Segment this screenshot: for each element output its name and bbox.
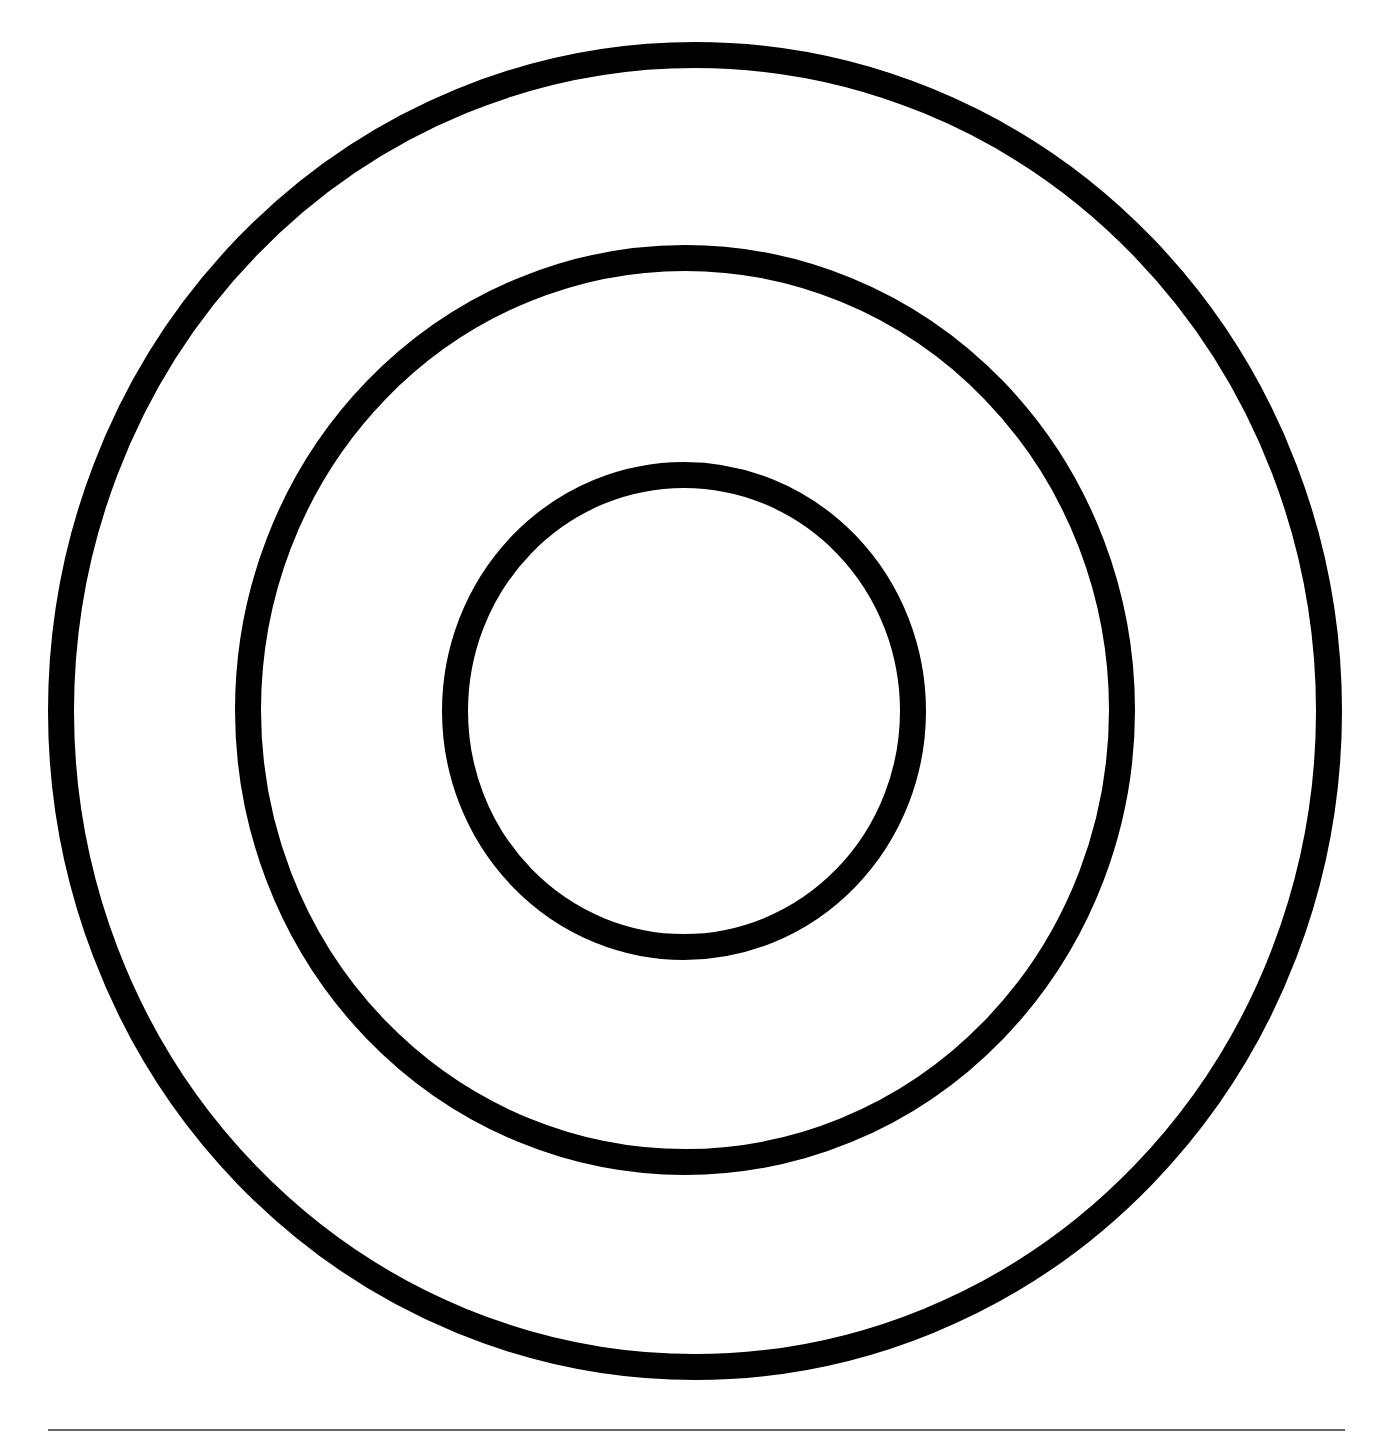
middle-ring: [248, 258, 1122, 1162]
inner-ring: [455, 475, 913, 947]
concentric-circles-diagram: [0, 0, 1383, 1441]
